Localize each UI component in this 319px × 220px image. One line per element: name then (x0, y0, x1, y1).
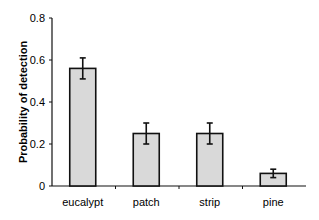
x-tick-label: eucalypt (62, 196, 103, 208)
x-tick-label: pine (263, 196, 284, 208)
y-tick-label: 0 (39, 180, 45, 192)
y-tick-label: 0.8 (30, 12, 45, 24)
x-tick-label: strip (199, 196, 220, 208)
y-tick-label: 0.2 (30, 138, 45, 150)
y-axis-label: Probability of detection (17, 41, 29, 164)
bar-chart: 00.20.40.60.8Probability of detectioneuc… (0, 0, 319, 220)
x-tick-label: patch (133, 196, 160, 208)
y-tick-label: 0.6 (30, 54, 45, 66)
bar-eucalypt (70, 68, 96, 186)
y-tick-label: 0.4 (30, 96, 45, 108)
